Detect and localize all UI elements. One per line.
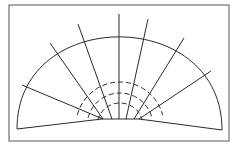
fan-diagram	[0, 0, 241, 154]
base-line	[17, 119, 222, 130]
spoke-line-5	[126, 19, 148, 119]
spoke-line-3	[78, 24, 112, 119]
dashed-arc-1	[77, 82, 162, 115]
dashed-arc-3	[98, 103, 143, 120]
diagram-canvas	[0, 0, 241, 154]
